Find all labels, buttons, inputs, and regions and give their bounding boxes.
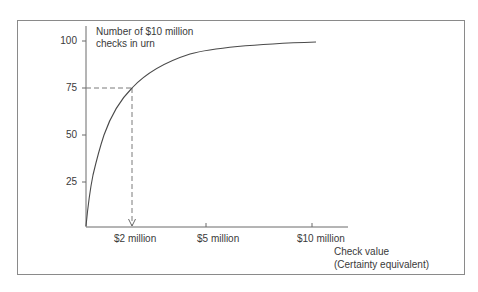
x-axis-title-line-2: (Certainty equivalent) xyxy=(334,259,429,271)
y-tick-label-75: 75 xyxy=(47,82,77,94)
y-tick-label-100: 100 xyxy=(47,35,77,47)
x-tick-label-2-million: $2 million xyxy=(114,233,156,245)
certainty-equivalent-curve xyxy=(86,42,316,226)
x-tick-label-5-million: $5 million xyxy=(197,233,239,245)
y-tick-label-50: 50 xyxy=(47,129,77,141)
x-tick-label-10-million: $10 million xyxy=(297,233,345,245)
x-axis-title-line-1: Check value xyxy=(334,246,389,258)
y-tick-label-25: 25 xyxy=(47,176,77,188)
y-axis-title-line-2: checks in urn xyxy=(96,38,155,50)
x-ticks xyxy=(206,223,312,227)
y-ticks xyxy=(82,41,86,182)
y-axis-title-line-1: Number of $10 million xyxy=(96,26,193,38)
